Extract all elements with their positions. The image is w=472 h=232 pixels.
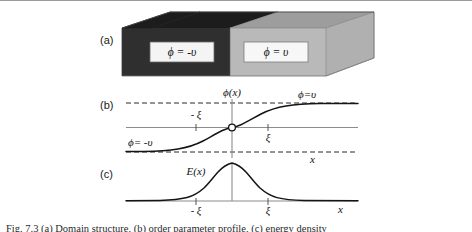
panel-b-group: ϕ(x) ϕ=υ ϕ= -υ - ξ ξ x (b) xyxy=(100,86,358,165)
panel-label-a: (a) xyxy=(100,34,113,46)
panel-label-c: (c) xyxy=(100,168,113,180)
energy-curve-label: E(x) xyxy=(186,165,206,178)
figure-canvas: ϕ = -υ ϕ = υ (a) ϕ(x) ϕ xyxy=(0,0,472,232)
upper-asymptote-label: ϕ=υ xyxy=(298,88,316,100)
panel-label-b: (b) xyxy=(100,99,113,111)
panel-c-tick-label-positive-xi: ξ xyxy=(266,205,271,217)
panel-b-tick-label-positive-xi: ξ xyxy=(266,132,271,144)
figure-caption: Fig. 7.3 (a) Domain structure, (b) order… xyxy=(6,223,468,232)
panel-c-x-axis-label: x xyxy=(337,203,343,215)
phi-of-x-label: ϕ(x) xyxy=(223,86,241,99)
panel-b-x-axis-label: x xyxy=(309,153,315,165)
right-domain-label: ϕ = υ xyxy=(264,46,289,59)
energy-density-curve xyxy=(126,163,358,201)
panel-b-tick-label-negative-xi: - ξ xyxy=(191,109,202,121)
panel-c-tick-label-negative-xi: - ξ xyxy=(191,205,202,217)
panel-a-group: ϕ = -υ ϕ = υ (a) xyxy=(100,12,374,76)
panel-c-group: E(x) - ξ ξ x (c) xyxy=(100,163,358,217)
lower-asymptote-label: ϕ= -υ xyxy=(128,136,153,148)
left-domain-label: ϕ = -υ xyxy=(168,46,197,59)
origin-open-circle-marker xyxy=(229,124,236,131)
figure-container: ϕ = -υ ϕ = υ (a) ϕ(x) ϕ xyxy=(0,0,472,232)
